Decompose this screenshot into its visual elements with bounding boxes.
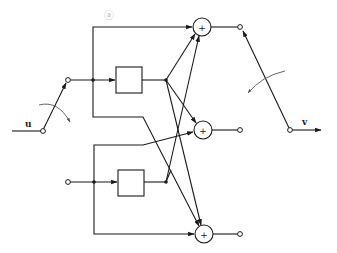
input-switch-pivot — [41, 129, 46, 134]
input-label-u: u — [25, 119, 32, 129]
output-switch-arm[interactable] — [243, 31, 289, 128]
output-terminal-1[interactable] — [238, 25, 243, 30]
block-upper[interactable] — [116, 67, 142, 93]
output-label-v: v — [301, 117, 308, 127]
plus-icon: + — [199, 126, 207, 136]
summer-top: + — [193, 18, 211, 36]
output-switch-pivot — [288, 128, 293, 133]
output-terminal-2[interactable] — [238, 128, 243, 133]
block-lower[interactable] — [118, 170, 144, 196]
block-diagram: ⓐ u + + + — [0, 0, 337, 253]
plus-icon: + — [198, 23, 206, 33]
rotation-arrow-icon — [248, 71, 285, 93]
input-switch[interactable] — [12, 83, 70, 133]
output-switch[interactable] — [243, 31, 321, 132]
summer-bottom: + — [195, 225, 213, 243]
upper-input-terminal[interactable] — [66, 78, 71, 83]
output-terminal-3[interactable] — [238, 232, 243, 237]
upper-block-to-bottom-summer — [166, 80, 201, 225]
plus-icon: + — [200, 230, 208, 240]
lower-block-to-top-summer — [166, 36, 199, 182]
handwritten-annotation: ⓐ — [104, 10, 114, 21]
lower-input-terminal[interactable] — [66, 180, 71, 185]
summer-middle: + — [194, 121, 212, 139]
input-switch-arm[interactable] — [43, 83, 66, 130]
